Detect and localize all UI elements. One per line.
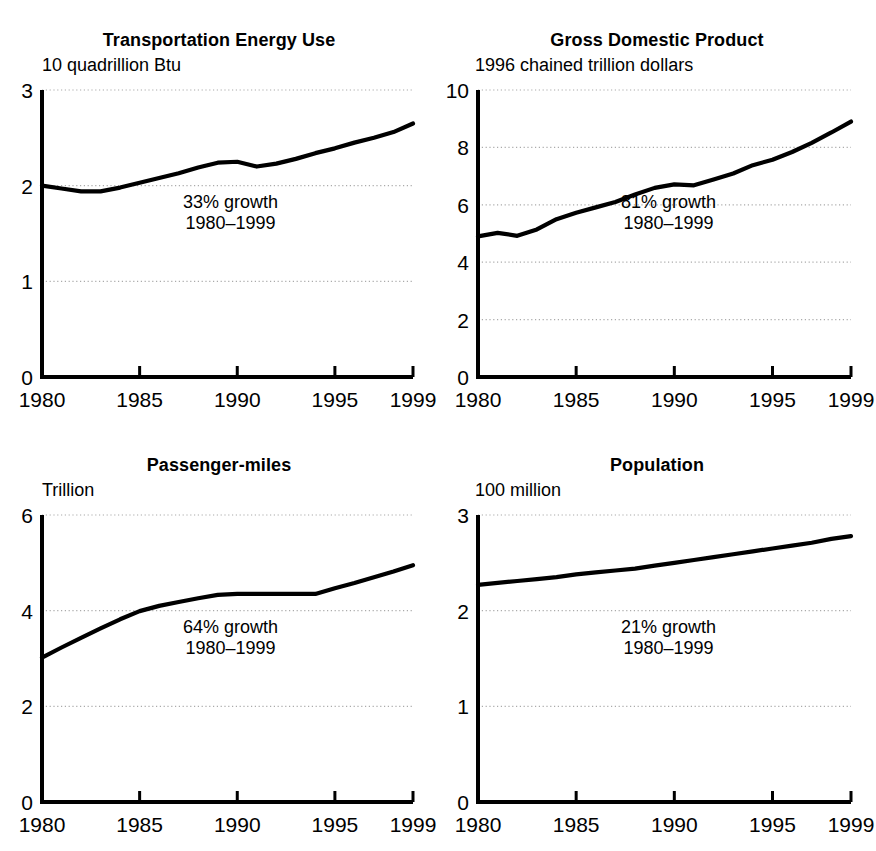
xtick-label-1995: 1995 (312, 388, 359, 411)
xtick-label-1999: 1999 (828, 388, 875, 411)
ytick-label-0: 0 (21, 791, 33, 814)
xtick-label-1999: 1999 (390, 388, 437, 411)
data-line-3 (478, 536, 851, 585)
annotation-transportation-energy-use: 33% growth 1980–1999 (183, 192, 278, 234)
ytick-label-0: 0 (457, 791, 469, 814)
xtick-label-1990: 1990 (214, 388, 261, 411)
xtick-label-1999: 1999 (828, 813, 875, 836)
four-panel-line-chart-figure: Transportation Energy Use 10 quadrillion… (0, 0, 876, 851)
xtick-label-1995: 1995 (749, 388, 796, 411)
ytick-label-2: 2 (457, 600, 469, 623)
panel-passenger-miles: Passenger-miles Trillion 024619801985199… (0, 425, 438, 850)
annotation-line-1: 33% growth (183, 192, 278, 213)
ytick-label-2: 2 (21, 695, 33, 718)
panel-gross-domestic-product: Gross Domestic Product 1996 chained tril… (438, 0, 876, 425)
panel-population: Population 100 million 01231980198519901… (438, 425, 876, 850)
annotation-population: 21% growth 1980–1999 (621, 617, 716, 659)
annotation-gross-domestic-product: 81% growth 1980–1999 (621, 192, 716, 234)
annotation-line-2: 1980–1999 (183, 638, 278, 659)
xtick-label-1990: 1990 (651, 813, 698, 836)
ytick-label-4: 4 (21, 600, 33, 623)
xtick-label-1980: 1980 (455, 388, 502, 411)
ytick-label-1: 1 (21, 270, 33, 293)
ytick-label-1: 1 (457, 695, 469, 718)
annotation-line-2: 1980–1999 (621, 213, 716, 234)
annotation-line-2: 1980–1999 (183, 213, 278, 234)
ytick-label-8: 8 (457, 136, 469, 159)
ytick-label-3: 3 (457, 504, 469, 527)
annotation-line-1: 81% growth (621, 192, 716, 213)
annotation-line-2: 1980–1999 (621, 638, 716, 659)
ytick-label-3: 3 (21, 79, 33, 102)
ytick-label-6: 6 (21, 504, 33, 527)
annotation-line-1: 21% growth (621, 617, 716, 638)
xtick-label-1985: 1985 (116, 388, 163, 411)
xtick-label-1980: 1980 (455, 813, 502, 836)
xtick-label-1995: 1995 (749, 813, 796, 836)
xtick-label-1985: 1985 (116, 813, 163, 836)
xtick-label-1990: 1990 (214, 813, 261, 836)
ytick-label-2: 2 (457, 309, 469, 332)
xtick-label-1995: 1995 (312, 813, 359, 836)
annotation-line-1: 64% growth (183, 617, 278, 638)
ytick-label-0: 0 (21, 366, 33, 389)
ytick-label-0: 0 (457, 366, 469, 389)
ytick-label-2: 2 (21, 175, 33, 198)
xtick-label-1985: 1985 (553, 813, 600, 836)
xtick-label-1999: 1999 (390, 813, 437, 836)
ytick-label-10: 10 (446, 79, 469, 102)
ytick-label-4: 4 (457, 251, 469, 274)
annotation-passenger-miles: 64% growth 1980–1999 (183, 617, 278, 659)
data-line-0 (42, 123, 413, 191)
xtick-label-1980: 1980 (19, 388, 66, 411)
xtick-label-1980: 1980 (19, 813, 66, 836)
ytick-label-6: 6 (457, 194, 469, 217)
panel-transportation-energy-use: Transportation Energy Use 10 quadrillion… (0, 0, 438, 425)
xtick-label-1985: 1985 (553, 388, 600, 411)
xtick-label-1990: 1990 (651, 388, 698, 411)
